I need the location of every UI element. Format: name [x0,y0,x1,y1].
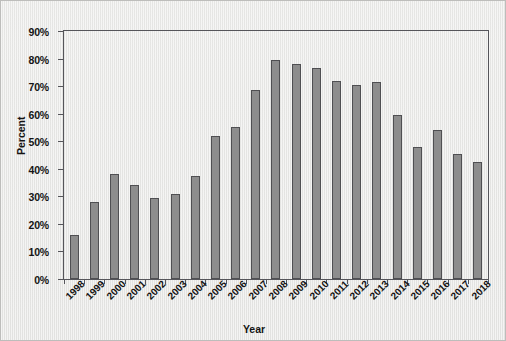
x-tick-slot: 2016 [428,282,448,322]
y-axis-tick-label: 30% [29,191,49,203]
x-tick-slot: 2013 [367,282,387,322]
x-axis-tick-labels: 1998199920002001200220032004200520062007… [63,282,489,322]
x-tick-slot: 2000 [104,282,124,322]
x-tick-slot: 2011 [327,282,347,322]
bar-slot [125,31,145,279]
bar-slot [286,31,306,279]
bar [312,68,321,279]
bar [372,82,381,279]
bar-slot [367,31,387,279]
x-tick-slot: 2004 [185,282,205,322]
bar-slot [84,31,104,279]
bar [332,81,341,279]
y-axis-tick-label: 80% [29,54,49,66]
bar [433,130,442,279]
plot-area: 90%80%70%60%50%40%30%20%10%0% [63,30,489,280]
bar-slot [306,31,326,279]
bar [473,162,482,279]
bar [70,235,79,279]
bar [251,90,260,279]
x-tick-slot: 2003 [164,282,184,322]
bar-slot [104,31,124,279]
bar-slot [226,31,246,279]
bar [90,202,99,279]
x-tick-slot: 2015 [408,282,428,322]
bar-slot [347,31,367,279]
bar-slot [185,31,205,279]
y-axis-tick-label: 90% [29,26,49,38]
x-tick-slot: 2006 [225,282,245,322]
bar-chart-figure: Percent 90%80%70%60%50%40%30%20%10%0% 19… [0,0,506,341]
x-tick-slot: 2018 [469,282,489,322]
bar [352,85,361,279]
y-axis-tick-label: 50% [29,136,49,148]
bar-series [64,31,488,279]
bar [292,64,301,279]
bar-slot [427,31,447,279]
bar [413,147,422,279]
x-axis-tick-label: 2018 [469,278,493,302]
bar [130,185,139,279]
bar-slot [266,31,286,279]
x-tick-slot: 2007 [246,282,266,322]
y-axis-title: Percent [15,116,27,155]
bar [150,198,159,279]
bar [231,127,240,279]
plot-inner: 90%80%70%60%50%40%30%20%10%0% [64,31,488,279]
x-tick-slot: 1999 [83,282,103,322]
bar [271,60,280,279]
y-axis-tick-label: 40% [29,164,49,176]
bar-slot [448,31,468,279]
x-tick-slot: 2008 [266,282,286,322]
x-tick-slot: 2017 [448,282,468,322]
x-tick-slot: 2012 [347,282,367,322]
bar-slot [468,31,488,279]
x-axis-title: Year [1,323,506,335]
y-axis-tick-label: 60% [29,109,49,121]
bar [110,174,119,279]
bar [453,154,462,279]
bar-slot [407,31,427,279]
bar [393,115,402,279]
bar [171,194,180,279]
y-axis-tick-label: 20% [29,219,49,231]
bar-slot [145,31,165,279]
y-axis-tick-label: 10% [29,246,49,258]
bar-slot [205,31,225,279]
bar-slot [165,31,185,279]
bar [191,176,200,279]
x-tick-slot: 2014 [388,282,408,322]
x-tick-slot: 1998 [63,282,83,322]
bar-slot [246,31,266,279]
x-tick-slot: 2001 [124,282,144,322]
x-tick-slot: 2010 [306,282,326,322]
y-axis-tick-label: 0% [34,274,49,286]
y-axis-tick-label: 70% [29,81,49,93]
bar-slot [64,31,84,279]
x-tick-slot: 2005 [205,282,225,322]
bar-slot [326,31,346,279]
bar [211,136,220,279]
x-tick-slot: 2002 [144,282,164,322]
bar-slot [387,31,407,279]
x-tick-slot: 2009 [286,282,306,322]
